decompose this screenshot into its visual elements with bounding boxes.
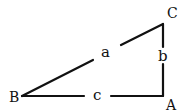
side-a-segment-upper — [121, 24, 163, 45]
vertex-a-label: A — [165, 97, 177, 112]
side-b-label: b — [158, 47, 168, 65]
side-a-segment-lower — [22, 60, 93, 96]
side-a-label: a — [101, 43, 110, 61]
triangle-diagram: a b c B C A — [0, 0, 191, 112]
vertex-c-label: C — [167, 5, 178, 21]
vertex-b-label: B — [9, 89, 19, 105]
side-c-label: c — [93, 86, 101, 104]
